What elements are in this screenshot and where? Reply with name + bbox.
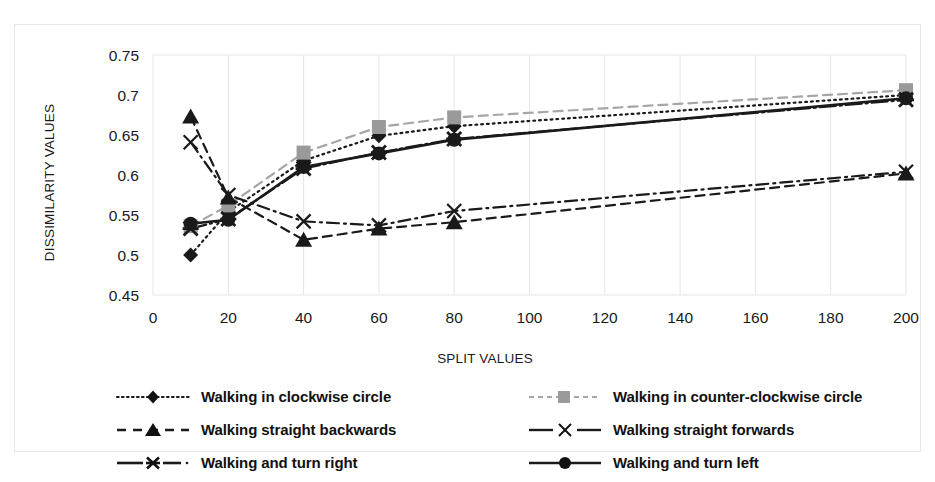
legend-label: Walking and turn right	[201, 454, 357, 471]
svg-text:160: 160	[742, 309, 768, 326]
legend-marker-circle-icon	[527, 453, 603, 473]
chart-frame: 0.450.50.550.60.650.70.75 02040608010012…	[14, 24, 921, 452]
svg-text:200: 200	[893, 309, 919, 326]
x-tick-labels: 020406080100120140160180200	[149, 309, 920, 326]
svg-text:0.45: 0.45	[109, 287, 139, 304]
legend-marker-triangle-icon	[115, 420, 191, 440]
svg-text:120: 120	[592, 309, 618, 326]
svg-text:60: 60	[370, 309, 388, 326]
svg-text:20: 20	[220, 309, 238, 326]
x-axis-title: SPLIT VALUES	[405, 351, 565, 366]
legend-marker-asterisk-icon	[115, 453, 191, 473]
svg-text:140: 140	[667, 309, 693, 326]
legend-marker-diamond-icon	[115, 387, 191, 407]
legend-label: Walking in clockwise circle	[201, 388, 391, 405]
y-tick-labels: 0.450.50.550.60.650.70.75	[109, 47, 139, 304]
chart-legend: Walking in clockwise circle Walking in c…	[115, 380, 927, 479]
svg-text:0.55: 0.55	[109, 207, 139, 224]
legend-label: Walking in counter-clockwise circle	[613, 388, 862, 405]
chart-page: 0.450.50.550.60.650.70.75 02040608010012…	[0, 0, 935, 482]
svg-text:0: 0	[149, 309, 158, 326]
series-markers	[182, 83, 914, 262]
legend-item-straight-forwards[interactable]: Walking straight forwards	[527, 413, 917, 446]
svg-text:80: 80	[446, 309, 464, 326]
legend-item-clockwise[interactable]: Walking in clockwise circle	[115, 380, 505, 413]
svg-text:0.5: 0.5	[117, 247, 139, 264]
legend-label: Walking straight backwards	[201, 421, 396, 438]
svg-text:40: 40	[295, 309, 313, 326]
svg-text:180: 180	[818, 309, 844, 326]
legend-label: Walking and turn left	[613, 454, 759, 471]
legend-item-turn-right[interactable]: Walking and turn right	[115, 446, 505, 479]
svg-text:100: 100	[517, 309, 543, 326]
legend-item-straight-backwards[interactable]: Walking straight backwards	[115, 413, 505, 446]
svg-text:0.7: 0.7	[117, 87, 139, 104]
svg-text:0.75: 0.75	[109, 47, 139, 64]
gridlines	[153, 55, 906, 295]
legend-item-counter-clockwise[interactable]: Walking in counter-clockwise circle	[527, 380, 917, 413]
legend-marker-square-icon	[527, 387, 603, 407]
y-axis-title: DISSIMILARITY VALUES	[42, 93, 57, 273]
legend-label: Walking straight forwards	[613, 421, 794, 438]
legend-item-turn-left[interactable]: Walking and turn left	[527, 446, 917, 479]
svg-text:0.6: 0.6	[117, 167, 139, 184]
legend-marker-x-icon	[527, 420, 603, 440]
svg-text:0.65: 0.65	[109, 127, 139, 144]
